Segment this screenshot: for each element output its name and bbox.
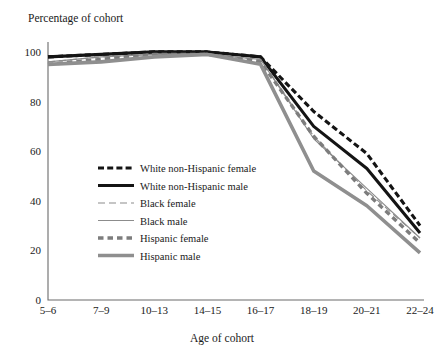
x-tick-label: 10–13 [141,304,169,316]
legend-label-0: White non-Hispanic female [140,163,256,174]
x-tick-label: 7–9 [93,304,110,316]
x-axis-title: Age of cohort [190,332,255,345]
legend-label-2: Black female [140,198,196,209]
series-line-2 [48,54,420,238]
legend-label-4: Hispanic female [140,233,209,244]
x-tick-label: 20–21 [353,304,381,316]
x-axis-tick-labels: 5–67–910–1314–1516–1718–1920–2122–24 [40,304,435,316]
x-tick-label: 14–15 [194,304,222,316]
chart-figure: Percentage of cohort 020406080100 5–67–9… [0,0,444,358]
series-lines [48,52,420,253]
y-tick-label: 20 [30,244,42,256]
x-tick-label: 18–19 [300,304,328,316]
y-axis-tick-labels: 020406080100 [25,46,42,306]
chart-legend: White non-Hispanic femaleWhite non-Hispa… [98,163,256,262]
legend-label-5: Hispanic male [140,251,201,262]
y-tick-label: 60 [30,145,42,157]
x-tick-label: 5–6 [40,304,57,316]
legend-label-3: Black male [140,216,188,227]
series-line-0 [48,52,420,226]
y-axis-title: Percentage of cohort [28,12,124,25]
series-line-5 [48,54,420,252]
x-tick-label: 16–17 [247,304,275,316]
y-tick-label: 40 [30,195,42,207]
series-line-3 [48,54,420,238]
y-tick-label: 80 [30,96,42,108]
series-line-4 [48,54,420,243]
legend-label-1: White non-Hispanic male [140,181,248,192]
y-tick-label: 100 [25,46,42,58]
x-tick-label: 22–24 [406,304,434,316]
